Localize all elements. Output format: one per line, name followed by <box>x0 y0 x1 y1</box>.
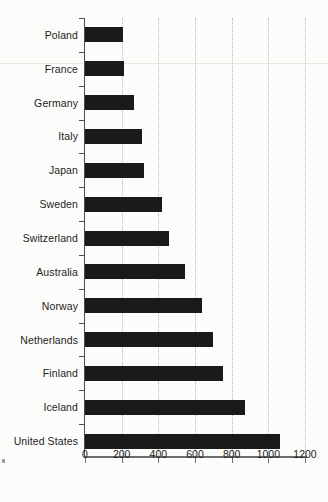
y-axis-label: Australia <box>0 266 78 278</box>
y-axis-tick <box>79 356 85 357</box>
gridline-600 <box>195 18 196 458</box>
y-axis-label: Switzerland <box>0 232 78 244</box>
y-axis-label: United States <box>0 435 78 447</box>
bar <box>85 264 185 279</box>
bar <box>85 366 223 381</box>
bar <box>85 61 124 76</box>
x-axis-tick-label: 600 <box>186 448 204 460</box>
gridline-1000 <box>268 18 269 458</box>
y-axis-label: Japan <box>0 164 78 176</box>
y-axis-label: Sweden <box>0 198 78 210</box>
y-axis-tick <box>79 424 85 425</box>
y-axis-tick <box>79 153 85 154</box>
y-axis-tick <box>79 221 85 222</box>
y-axis-tick <box>79 390 85 391</box>
plot-area <box>85 18 305 458</box>
x-axis-tick-label: 1000 <box>257 448 280 460</box>
bar <box>85 332 213 347</box>
y-axis-tick <box>79 289 85 290</box>
bar <box>85 27 123 42</box>
bar-chart: PolandFranceGermanyItalyJapanSwedenSwitz… <box>0 0 328 502</box>
y-axis-tick <box>79 323 85 324</box>
page-edge-mark <box>2 459 5 463</box>
bar <box>85 400 245 415</box>
gridline-800 <box>232 18 233 458</box>
y-axis-label: Germany <box>0 97 78 109</box>
y-axis-label: France <box>0 63 78 75</box>
y-axis-label: Iceland <box>0 401 78 413</box>
x-axis-tick-label: 1200 <box>293 448 316 460</box>
bar <box>85 298 202 313</box>
bar <box>85 95 134 110</box>
x-axis-tick-label: 200 <box>113 448 131 460</box>
y-axis-label: Netherlands <box>0 334 78 346</box>
y-axis-label: Italy <box>0 130 78 142</box>
y-axis-label: Poland <box>0 29 78 41</box>
x-axis-tick-label: 400 <box>150 448 168 460</box>
x-axis-tick-label: 0 <box>82 448 88 460</box>
y-axis-tick <box>79 86 85 87</box>
gridline-1200 <box>305 18 306 458</box>
y-axis-label: Finland <box>0 367 78 379</box>
bar <box>85 129 142 144</box>
y-axis-tick <box>79 52 85 53</box>
y-axis-tick <box>79 120 85 121</box>
bar <box>85 163 144 178</box>
x-axis-tick-label: 800 <box>223 448 241 460</box>
bar <box>85 434 280 449</box>
bar <box>85 231 169 246</box>
bar <box>85 197 162 212</box>
y-axis-label: Norway <box>0 300 78 312</box>
y-axis-tick <box>79 255 85 256</box>
y-axis-tick <box>79 18 85 19</box>
y-axis-tick <box>79 187 85 188</box>
